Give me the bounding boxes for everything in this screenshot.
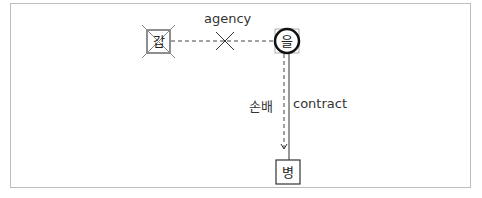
node-eul-label: 을 (275, 35, 299, 48)
damages-label: 손배 (249, 96, 273, 115)
diagram-canvas (0, 0, 482, 198)
negation-x-icon (216, 32, 234, 50)
agency-label: agency (204, 11, 251, 26)
node-byeong-label: 병 (276, 166, 300, 179)
contract-label: contract (293, 96, 347, 111)
node-gap-label: 갑 (147, 35, 170, 48)
